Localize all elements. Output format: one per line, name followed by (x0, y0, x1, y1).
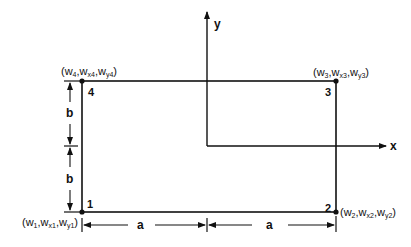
dim-b-upper-label: b (66, 107, 73, 119)
dim-a-left-label: a (137, 219, 144, 231)
node-1-number: 1 (87, 199, 93, 210)
node-4-dot (79, 78, 84, 83)
x-axis-label: x (390, 140, 397, 152)
node-2-number: 2 (325, 203, 331, 214)
node-2-dof-label: (w2,wx2,wy2) (340, 207, 396, 219)
node-4-number: 4 (88, 87, 94, 98)
node-3-dot (333, 78, 338, 83)
node-1-dof-label: (w1,wx1,wy1) (22, 217, 78, 229)
node-4-dof-label: (w4,wx4,wy4) (61, 66, 117, 78)
node-3-dof-label: (w3,wx3,wy3) (313, 67, 369, 79)
node-3-number: 3 (325, 87, 331, 98)
node-1-dot (79, 209, 84, 214)
dim-a-right-label: a (266, 219, 273, 231)
y-axis-label: y (214, 18, 221, 30)
node-2-dot (333, 209, 338, 214)
dim-b-lower-label: b (66, 173, 73, 185)
